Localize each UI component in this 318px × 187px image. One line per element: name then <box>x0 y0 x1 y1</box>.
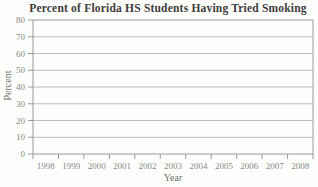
x-tick-label: 2004 <box>189 161 208 171</box>
y-tick-label: 10 <box>16 132 26 142</box>
smoking-percent-chart: Percent of Florida HS Students Having Tr… <box>0 0 318 187</box>
y-tick-label: 60 <box>16 49 26 59</box>
x-tick-label: 2007 <box>266 161 285 171</box>
y-tick-label: 0 <box>21 149 26 159</box>
x-tick-label: 2005 <box>215 161 234 171</box>
x-tick-label: 2003 <box>164 161 183 171</box>
x-axis-label: Year <box>33 172 313 183</box>
y-tick-label: 20 <box>16 116 26 126</box>
x-tick-label: 1999 <box>62 161 81 171</box>
x-tick-label: 2001 <box>113 161 131 171</box>
x-tick-label: 2006 <box>240 161 259 171</box>
y-tick-label: 80 <box>16 15 26 25</box>
y-tick-label: 30 <box>16 99 26 109</box>
x-tick-label: 2008 <box>291 161 310 171</box>
plot-area: 0102030405060708019981999200020012002200… <box>0 0 318 187</box>
x-tick-label: 2002 <box>139 161 157 171</box>
y-tick-label: 70 <box>16 32 26 42</box>
x-tick-label: 1998 <box>37 161 56 171</box>
y-tick-label: 40 <box>16 82 26 92</box>
x-tick-label: 2000 <box>88 161 107 171</box>
y-tick-label: 50 <box>16 65 26 75</box>
